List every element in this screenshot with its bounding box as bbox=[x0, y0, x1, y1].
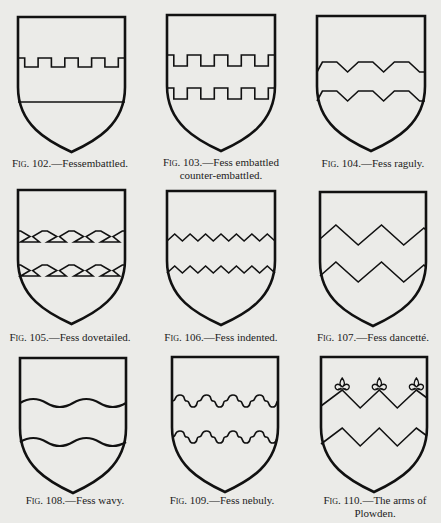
figure-103-fess-embattled-counter-embattled bbox=[167, 15, 275, 151]
fig-title: —Fess embattled bbox=[202, 156, 279, 168]
figure-106-fess-indented bbox=[167, 191, 275, 325]
figure-102-fess-embattled bbox=[18, 17, 125, 152]
caption-fig-105: Fig. 105.—Fess dovetailed. bbox=[0, 331, 145, 344]
figure-108-fess-wavy bbox=[20, 358, 126, 493]
figure-107-fess-dancette bbox=[320, 192, 426, 326]
fig-number: Fig. 103. bbox=[163, 156, 202, 168]
shield-fess-embattled-icon bbox=[18, 17, 125, 152]
fig-number: Fig. 102. bbox=[12, 157, 51, 169]
fig-number: Fig. 106. bbox=[164, 331, 203, 343]
shield-fess-raguly-icon bbox=[317, 16, 425, 151]
fig-number: Fig. 110. bbox=[323, 494, 362, 506]
shield-fess-wavy-icon bbox=[20, 358, 126, 493]
fig-title: —Fess raguly. bbox=[361, 157, 424, 169]
figure-105-fess-dovetailed bbox=[18, 190, 125, 324]
fig-title: —Fess dancetté. bbox=[356, 331, 429, 343]
fig-title: —Fessembattled. bbox=[51, 157, 128, 169]
shield-fess-dovetailed-icon bbox=[18, 190, 125, 324]
fig-number: Fig. 107. bbox=[317, 331, 356, 343]
figure-104-fess-raguly bbox=[317, 16, 425, 151]
fig-title-line2: counter-embattled. bbox=[180, 169, 263, 181]
fig-number: Fig. 105. bbox=[9, 331, 48, 343]
caption-fig-104: Fig. 104.—Fess raguly. bbox=[298, 157, 441, 170]
figure-109-fess-nebuly bbox=[172, 357, 278, 492]
caption-fig-108: Fig. 108.—Fess wavy. bbox=[0, 494, 150, 507]
caption-fig-110: Fig. 110.—The arms of Plowden. bbox=[300, 494, 441, 520]
caption-fig-106: Fig. 106.—Fess indented. bbox=[146, 331, 296, 344]
caption-fig-109: Fig. 109.—Fess nebuly. bbox=[147, 494, 297, 507]
fig-title: —Fess nebuly. bbox=[209, 494, 274, 506]
shield-plowden-fleur-de-lis-icon bbox=[321, 357, 427, 492]
caption-fig-107: Fig. 107.—Fess dancetté. bbox=[298, 331, 441, 344]
shield-fess-indented-icon bbox=[167, 191, 275, 325]
figure-110-arms-of-plowden bbox=[321, 357, 427, 492]
shield-fess-dancette-icon bbox=[320, 192, 426, 326]
shield-fess-nebuly-icon bbox=[172, 357, 278, 492]
fig-number: Fig. 104. bbox=[322, 157, 361, 169]
shield-fess-embattled-counter-embattled-icon bbox=[167, 15, 275, 151]
fig-title: —Fess wavy. bbox=[65, 494, 124, 506]
fig-title: —Fess dovetailed. bbox=[49, 331, 131, 343]
caption-fig-102: Fig. 102.—Fessembattled. bbox=[0, 157, 145, 170]
fig-title: —Fess indented. bbox=[204, 331, 278, 343]
fig-title-line2: Plowden. bbox=[354, 507, 395, 519]
fig-title: —The arms of bbox=[362, 494, 426, 506]
fig-number: Fig. 109. bbox=[170, 494, 209, 506]
caption-fig-103: Fig. 103.—Fess embattled counter-embattl… bbox=[146, 156, 296, 182]
fig-number: Fig. 108. bbox=[26, 494, 65, 506]
